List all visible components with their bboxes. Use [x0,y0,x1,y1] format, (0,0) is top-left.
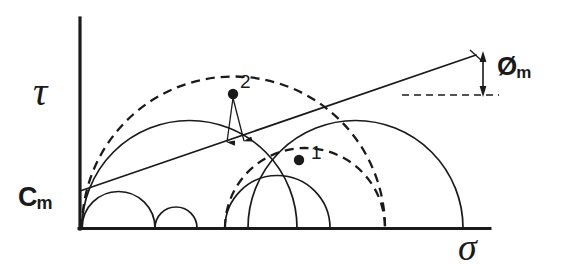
failure-envelope-line [80,55,476,191]
point-2-arrow-right [233,98,244,141]
cohesion-intercept-base: C [18,182,38,212]
phi-angle-arrowhead-up [480,51,487,62]
friction-angle-base: Ø [497,51,517,81]
envelope-end-tick [470,50,481,60]
axes-group [79,18,490,229]
solid-mohr-circles [82,120,463,228]
friction-angle-label: Øm [497,53,532,79]
friction-angle-subscript: m [516,63,531,82]
mohr-circle-solid-4 [225,176,330,228]
friction-angle-marker [480,51,487,97]
mohr-circle-solid-2 [155,207,197,228]
normal-stress-axis-label: σ [458,228,477,266]
mohr-circle-solid-1 [82,192,155,229]
data-point-1-label: 1 [311,143,322,162]
point-2-arrow-left [227,98,233,142]
data-point-1-dot [294,155,304,165]
mohr-circle-diagram: τ σ Cm Øm 2 1 [0,0,561,280]
data-point-2-label: 2 [240,72,251,91]
shear-stress-axis-label: τ [33,72,47,112]
cohesion-intercept-label: Cm [18,184,54,211]
cohesion-intercept-subscript: m [37,193,53,213]
data-point-2-dot [228,89,238,99]
